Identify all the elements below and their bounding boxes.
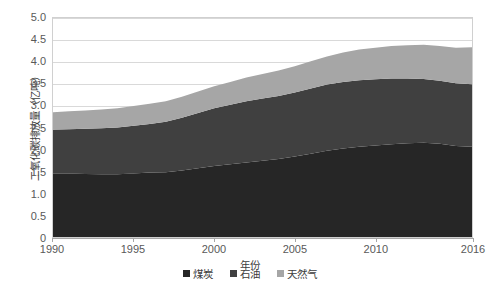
legend-item[interactable]: 石油 bbox=[230, 266, 260, 281]
y-tick-label: 2.0 bbox=[31, 144, 46, 156]
legend-label: 石油 bbox=[240, 266, 260, 281]
legend-item[interactable]: 天然气 bbox=[277, 266, 317, 281]
legend-swatch-icon bbox=[183, 270, 190, 277]
x-tick-mark bbox=[52, 238, 53, 242]
x-tick-label: 2005 bbox=[283, 243, 307, 255]
y-tick-label: 0.5 bbox=[31, 210, 46, 222]
x-tick-mark bbox=[376, 238, 377, 242]
legend-item[interactable]: 煤炭 bbox=[183, 266, 213, 281]
x-tick-mark bbox=[214, 238, 215, 242]
y-tick-label: 4.0 bbox=[31, 55, 46, 67]
legend-label: 煤炭 bbox=[193, 266, 213, 281]
y-tick-label: 4.5 bbox=[31, 33, 46, 45]
y-tick-label: 3.5 bbox=[31, 77, 46, 89]
series-layers bbox=[53, 18, 472, 237]
y-tick-label: 1.0 bbox=[31, 188, 46, 200]
y-tick-label: 1.5 bbox=[31, 166, 46, 178]
x-tick-mark bbox=[133, 238, 134, 242]
y-tick-label: 2.5 bbox=[31, 122, 46, 134]
x-tick-label: 2016 bbox=[461, 243, 485, 255]
x-tick-label: 2010 bbox=[364, 243, 388, 255]
stacked-area-chart: 二氧化碳排放量（亿吨） 00.51.01.52.02.53.03.54.04.5… bbox=[0, 0, 500, 289]
y-tick-label: 5.0 bbox=[31, 11, 46, 23]
chart-legend: 煤炭石油天然气 bbox=[0, 266, 500, 281]
x-tick-label: 1990 bbox=[40, 243, 64, 255]
y-tick-label: 3.0 bbox=[31, 99, 46, 111]
x-tick-mark bbox=[295, 238, 296, 242]
legend-swatch-icon bbox=[277, 270, 284, 277]
plot-area bbox=[52, 17, 473, 238]
x-tick-label: 2000 bbox=[202, 243, 226, 255]
legend-swatch-icon bbox=[230, 270, 237, 277]
x-tick-label: 1995 bbox=[121, 243, 145, 255]
legend-label: 天然气 bbox=[287, 266, 317, 281]
x-tick-mark bbox=[473, 238, 474, 242]
